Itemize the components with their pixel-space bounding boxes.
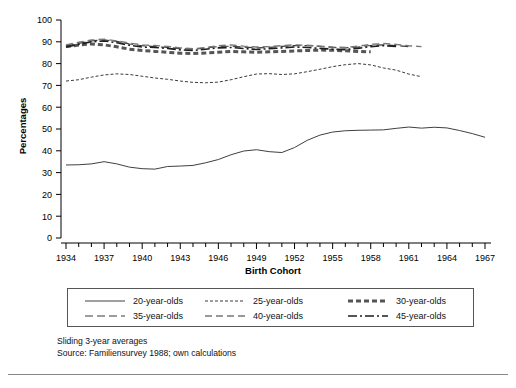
legend-label: 30-year-olds bbox=[396, 296, 447, 306]
y-axis-title: Percentages bbox=[17, 98, 28, 155]
x-tick-label: 1943 bbox=[170, 253, 190, 263]
y-tick-label: 70 bbox=[42, 81, 52, 91]
x-tick-label: 1937 bbox=[94, 253, 114, 263]
x-tick-label: 1961 bbox=[399, 253, 419, 263]
legend-label: 25-year-olds bbox=[253, 296, 304, 306]
x-tick-label: 1952 bbox=[285, 253, 305, 263]
x-tick-label: 1949 bbox=[246, 253, 266, 263]
x-tick-label: 1940 bbox=[132, 253, 152, 263]
y-tick-label: 0 bbox=[47, 233, 52, 243]
y-tick-label: 40 bbox=[42, 146, 52, 156]
y-tick-label: 80 bbox=[42, 59, 52, 69]
x-tick-label: 1955 bbox=[323, 253, 343, 263]
legend-label: 35-year-olds bbox=[133, 311, 184, 321]
x-tick-label: 1958 bbox=[361, 253, 381, 263]
x-tick-label: 1934 bbox=[56, 253, 76, 263]
chart-legend: 20-year-olds25-year-olds30-year-olds35-y… bbox=[68, 289, 474, 327]
x-tick-label: 1946 bbox=[208, 253, 228, 263]
y-tick-label: 100 bbox=[37, 15, 52, 25]
legend-label: 45-year-olds bbox=[396, 311, 447, 321]
y-tick-label: 60 bbox=[42, 103, 52, 113]
legend-label: 20-year-olds bbox=[133, 296, 184, 306]
note-sliding-average: Sliding 3-year averages bbox=[57, 336, 147, 346]
y-tick-label: 90 bbox=[42, 37, 52, 47]
y-tick-label: 10 bbox=[42, 212, 52, 222]
x-tick-label: 1967 bbox=[475, 253, 495, 263]
x-axis-title: Birth Cohort bbox=[245, 265, 302, 276]
chart-figure: 0102030405060708090100 19341937194019431… bbox=[0, 0, 516, 388]
note-source: Source: Familiensurvey 1988; own calcula… bbox=[57, 348, 236, 358]
y-tick-label: 30 bbox=[42, 168, 52, 178]
x-tick-label: 1964 bbox=[437, 253, 457, 263]
legend-label: 40-year-olds bbox=[253, 311, 304, 321]
y-tick-label: 50 bbox=[42, 124, 52, 134]
y-tick-label: 20 bbox=[42, 190, 52, 200]
figure-background bbox=[0, 0, 516, 388]
